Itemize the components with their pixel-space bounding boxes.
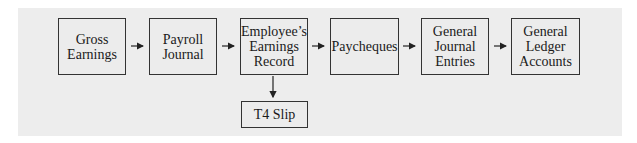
node-payroll-journal: Payroll Journal — [149, 18, 217, 75]
node-general-ledger-accounts: General Ledger Accounts — [511, 18, 580, 75]
node-general-journal-entries: General Journal Entries — [421, 18, 489, 75]
node-t4-slip: T4 Slip — [241, 101, 308, 128]
node-gross-earnings: Gross Earnings — [58, 18, 126, 75]
node-employees-earnings-record: Employee’s Earnings Record — [240, 18, 308, 75]
node-paycheques: Paycheques — [330, 18, 399, 75]
